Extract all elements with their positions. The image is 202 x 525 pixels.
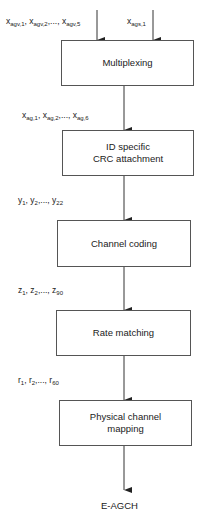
block-label: Rate matching (93, 327, 154, 339)
output-label-e-agch: E-AGCH (101, 500, 138, 511)
block-physical-channel-mapping: Physical channel mapping (59, 400, 192, 446)
block-channel-coding: Channel coding (57, 220, 191, 267)
signal-label-z: z1, z2,..., z90 (18, 285, 63, 296)
signal-label-x-ag: xag,1, xag,2,..., xag,6 (22, 110, 89, 121)
block-label: Channel coding (91, 238, 157, 250)
block-label-line2: mapping (107, 423, 143, 435)
block-label: Multiplexing (102, 57, 152, 69)
signal-label-r: r1, r2,..., r60 (18, 375, 59, 386)
block-label-line2: CRC attachment (93, 153, 163, 165)
block-multiplexing: Multiplexing (61, 40, 194, 86)
input-label-ags: xags,1 (127, 16, 146, 27)
block-label-line1: Physical channel (90, 411, 161, 423)
block-label-line1: ID specific (106, 141, 150, 153)
block-rate-matching: Rate matching (56, 310, 191, 356)
block-crc-attachment: ID specific CRC attachment (62, 130, 194, 176)
signal-label-y: y1, y2,..., y22 (18, 195, 63, 206)
input-label-agv: xagv,1, xagv,2,..., xagv,5 (6, 16, 80, 27)
